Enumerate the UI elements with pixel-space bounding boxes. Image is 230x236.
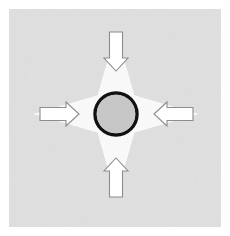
convergence-diagram xyxy=(0,0,230,236)
figure-root xyxy=(0,0,230,236)
center-disc xyxy=(95,93,137,135)
